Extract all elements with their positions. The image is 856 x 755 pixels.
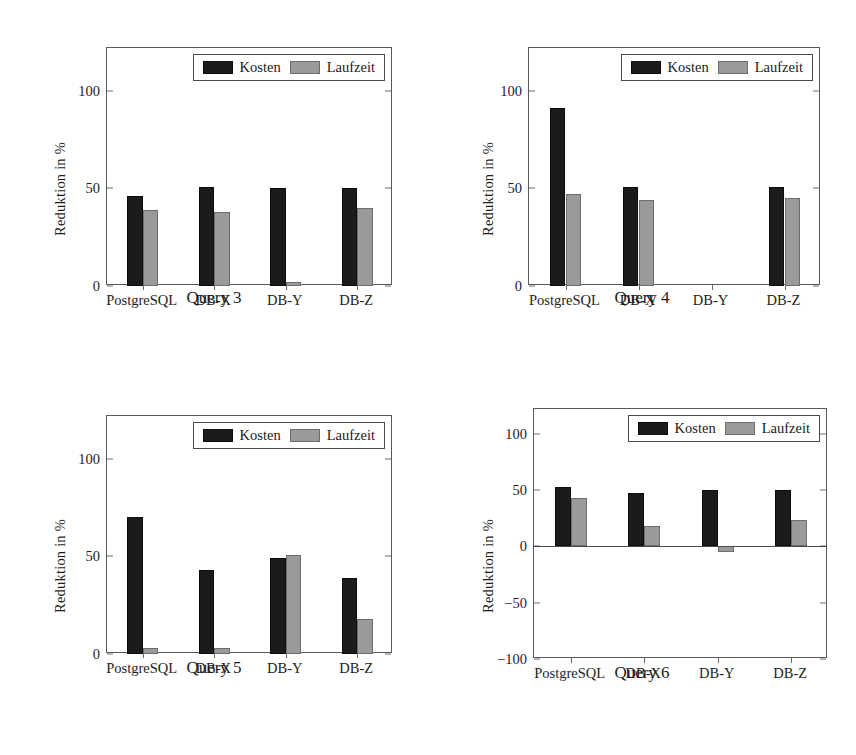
bar-kosten xyxy=(270,188,285,286)
y-axis-tick-mark xyxy=(385,188,391,189)
bar-kosten xyxy=(775,490,791,546)
x-axis-label-db-z: DB-Z xyxy=(339,292,373,309)
y-axis-tick-mark xyxy=(813,188,819,189)
bar-kosten xyxy=(270,558,285,654)
bar-laufzeit xyxy=(143,210,158,286)
legend-label-laufzeit: Laufzeit xyxy=(327,427,375,444)
x-axis-label-db-z: DB-Z xyxy=(767,292,801,309)
legend-entry-laufzeit: Laufzeit xyxy=(290,427,375,444)
bar-laufzeit xyxy=(286,282,301,286)
bars-container xyxy=(107,416,391,652)
y-axis-tick-mark xyxy=(534,433,540,434)
y-axis-tick-mark xyxy=(385,90,391,91)
y-axis-tick-mark xyxy=(529,286,535,287)
legend-entry-laufzeit: Laufzeit xyxy=(718,59,803,76)
legend-swatch-kosten-icon xyxy=(203,429,233,442)
y-axis-tick-mark xyxy=(820,659,826,660)
y-axis-tick-mark xyxy=(813,286,819,287)
y-axis-label: Reduktion in % xyxy=(480,519,497,613)
bar-kosten xyxy=(127,517,142,654)
bar-kosten xyxy=(769,187,785,286)
legend: Kosten Laufzeit xyxy=(193,54,385,81)
x-axis-label-db-x: DB-X xyxy=(620,292,655,309)
y-axis-tick-mark xyxy=(534,602,540,603)
legend-entry-kosten: Kosten xyxy=(203,59,281,76)
bar-laufzeit xyxy=(214,212,229,286)
plot-area: Kosten Laufzeit 050100 xyxy=(106,47,392,285)
bar-kosten xyxy=(199,570,214,654)
legend-label-laufzeit: Laufzeit xyxy=(755,59,803,76)
bar-laufzeit xyxy=(644,526,660,546)
bar-laufzeit xyxy=(566,194,582,286)
bar-laufzeit xyxy=(571,498,587,546)
x-axis-label-db-y: DB-Y xyxy=(267,660,302,677)
legend-entry-kosten: Kosten xyxy=(638,420,716,437)
y-axis-label: Reduktion in % xyxy=(52,519,69,613)
y-axis-tick-mark xyxy=(820,490,826,491)
y-axis-tick-mark xyxy=(107,188,113,189)
y-axis-label: Reduktion in % xyxy=(52,142,69,236)
bar-laufzeit xyxy=(791,520,807,546)
x-axis-label-postgresql: PostgreSQL xyxy=(534,665,605,682)
bars-container xyxy=(107,48,391,284)
legend-swatch-laufzeit-icon xyxy=(290,429,320,442)
x-axis-label-db-y: DB-Y xyxy=(267,292,302,309)
plot-area: Kosten Laufzeit 050100 xyxy=(106,415,392,653)
y-axis-tick-label: 50 xyxy=(508,180,523,197)
y-axis-tick-label: 100 xyxy=(78,82,100,99)
bar-laufzeit xyxy=(214,648,229,654)
y-axis-tick-mark xyxy=(385,556,391,557)
legend-label-kosten: Kosten xyxy=(240,427,281,444)
bar-kosten xyxy=(342,578,357,654)
bar-kosten xyxy=(702,490,718,546)
y-axis-tick-mark xyxy=(385,458,391,459)
legend-entry-kosten: Kosten xyxy=(631,59,709,76)
bar-kosten xyxy=(199,187,214,286)
bar-laufzeit xyxy=(143,648,158,654)
bar-laufzeit xyxy=(286,555,301,654)
bar-laufzeit xyxy=(785,198,801,286)
y-axis-tick-mark xyxy=(385,286,391,287)
zero-baseline xyxy=(534,546,826,547)
y-axis-tick-mark xyxy=(820,602,826,603)
y-axis-tick-label: −50 xyxy=(504,594,527,611)
bars-container xyxy=(534,409,826,657)
bar-kosten xyxy=(628,493,644,546)
bars-container xyxy=(529,48,819,284)
legend-swatch-laufzeit-icon xyxy=(725,422,755,435)
figure-query-3: Reduktion in % Kosten Laufzeit 050100 Qu… xyxy=(0,0,428,377)
y-axis-tick-mark xyxy=(534,490,540,491)
legend-label-laufzeit: Laufzeit xyxy=(762,420,810,437)
legend-entry-laufzeit: Laufzeit xyxy=(290,59,375,76)
y-axis-tick-label: 50 xyxy=(86,180,101,197)
plot-area: Kosten Laufzeit −100−50050100 xyxy=(533,408,827,658)
y-axis-tick-mark xyxy=(107,90,113,91)
y-axis-label: Reduktion in % xyxy=(480,142,497,236)
legend-label-kosten: Kosten xyxy=(675,420,716,437)
legend-entry-kosten: Kosten xyxy=(203,427,281,444)
legend-swatch-kosten-icon xyxy=(638,422,668,435)
bar-laufzeit xyxy=(357,619,372,654)
y-axis-tick-mark xyxy=(107,286,113,287)
legend-swatch-kosten-icon xyxy=(631,61,661,74)
x-axis-label-db-y: DB-Y xyxy=(693,292,728,309)
x-axis-label-db-y: DB-Y xyxy=(699,665,734,682)
legend-swatch-kosten-icon xyxy=(203,61,233,74)
y-axis-tick-label: 100 xyxy=(500,82,522,99)
y-axis-tick-label: 100 xyxy=(78,450,100,467)
y-axis-tick-label: 100 xyxy=(505,425,527,442)
bar-kosten xyxy=(623,187,639,286)
bar-laufzeit xyxy=(357,208,372,286)
y-axis-tick-mark xyxy=(107,654,113,655)
x-axis-label-db-x: DB-X xyxy=(626,665,661,682)
x-axis-label-db-x: DB-X xyxy=(196,660,231,677)
y-axis-tick-label: 0 xyxy=(520,538,527,555)
legend: Kosten Laufzeit xyxy=(628,415,820,442)
y-axis-tick-mark xyxy=(534,659,540,660)
y-axis-tick-mark xyxy=(529,90,535,91)
chart-panel-query-5: Reduktion in % Kosten Laufzeit 050100 Qu… xyxy=(0,377,428,755)
legend: Kosten Laufzeit xyxy=(193,422,385,449)
figure-grid: Reduktion in % Kosten Laufzeit 050100 Qu… xyxy=(0,0,856,755)
y-axis-tick-label: 50 xyxy=(86,548,101,565)
y-axis-tick-mark xyxy=(107,458,113,459)
